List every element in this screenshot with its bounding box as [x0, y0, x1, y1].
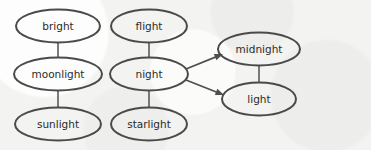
edge-shaft	[186, 56, 217, 69]
edge-shaft	[186, 80, 218, 93]
node-label-midnight: midnight	[236, 43, 283, 55]
edge-night-midnight	[186, 54, 223, 69]
node-night[interactable]: night	[110, 58, 188, 91]
node-label-flight: flight	[136, 20, 163, 32]
nodes-layer: brightmoonlightsunlightflightnightstarli…	[14, 10, 300, 141]
node-moonlight[interactable]: moonlight	[14, 58, 102, 91]
node-label-light: light	[247, 93, 270, 105]
diagram-canvas: brightmoonlightsunlightflightnightstarli…	[0, 0, 371, 150]
node-flight[interactable]: flight	[111, 10, 187, 43]
word-relation-diagram: brightmoonlightsunlightflightnightstarli…	[0, 0, 371, 150]
node-sunlight[interactable]: sunlight	[15, 108, 101, 141]
node-label-sunlight: sunlight	[37, 118, 79, 130]
node-midnight[interactable]: midnight	[218, 33, 300, 66]
node-bright[interactable]: bright	[16, 10, 100, 43]
node-label-bright: bright	[42, 20, 73, 32]
edge-night-light	[186, 80, 224, 95]
node-label-starlight: starlight	[127, 118, 171, 130]
node-label-moonlight: moonlight	[31, 68, 84, 80]
node-light[interactable]: light	[222, 83, 296, 116]
node-starlight[interactable]: starlight	[111, 108, 187, 141]
node-label-night: night	[135, 68, 162, 80]
